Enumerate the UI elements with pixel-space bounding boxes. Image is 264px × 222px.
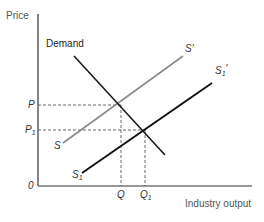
supply-demand-diagram: Price Industry output 0 Demand S S′ S1 S… xyxy=(0,0,264,222)
s1-prime-label: S1′ xyxy=(215,63,229,77)
price-p1-label: P1 xyxy=(25,124,36,136)
origin-label: 0 xyxy=(28,180,34,191)
y-axis-label: Price xyxy=(6,10,29,21)
s-prime-mark: ′ xyxy=(192,43,195,54)
s1-subscript: 1 xyxy=(79,174,83,181)
demand-label: Demand xyxy=(46,38,84,49)
p1-subscript: 1 xyxy=(32,129,36,136)
price-p-label: P xyxy=(28,99,35,110)
s-prime-label: S′ xyxy=(185,43,195,54)
quantity-q1-label: Q1 xyxy=(140,189,152,201)
supply-curve-s1 xyxy=(82,83,212,173)
s-label: S xyxy=(54,140,61,151)
demand-curve xyxy=(74,56,165,155)
s1-label: S1 xyxy=(72,169,83,181)
quantity-q-label: Q xyxy=(117,189,125,200)
q1-subscript: 1 xyxy=(148,194,152,201)
s1-prime-mark: ′ xyxy=(226,63,229,74)
x-axis-label: Industry output xyxy=(185,198,251,209)
diagram-canvas: Price Industry output 0 Demand S S′ S1 S… xyxy=(0,0,264,222)
